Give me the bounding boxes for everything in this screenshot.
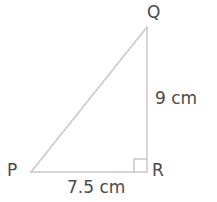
geometry-figure: Q P R 9 cm 7.5 cm — [0, 0, 217, 202]
vertex-label-p: P — [7, 162, 17, 179]
side-length-label-qr: 9 cm — [155, 90, 197, 107]
side-length-label-pr: 7.5 cm — [67, 179, 125, 196]
vertex-label-q: Q — [147, 4, 160, 21]
right-angle-marker-icon — [134, 159, 147, 172]
segment-pq — [31, 27, 147, 172]
vertex-label-r: R — [152, 162, 164, 179]
